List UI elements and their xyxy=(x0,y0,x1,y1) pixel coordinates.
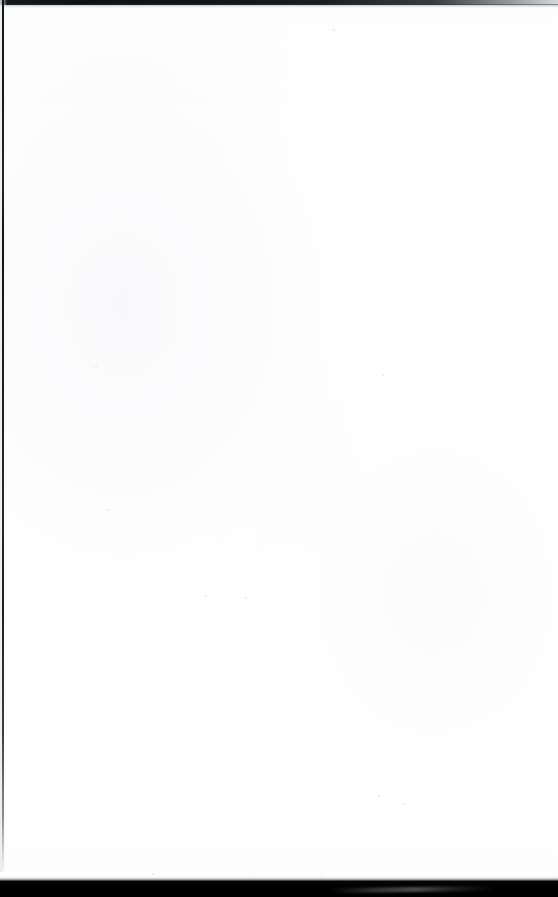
bottom-scanner-band xyxy=(0,881,558,897)
paper-surface xyxy=(0,0,558,897)
scanned-page xyxy=(0,0,558,897)
top-edge-feather xyxy=(0,4,558,8)
left-margin-rule xyxy=(2,0,4,872)
